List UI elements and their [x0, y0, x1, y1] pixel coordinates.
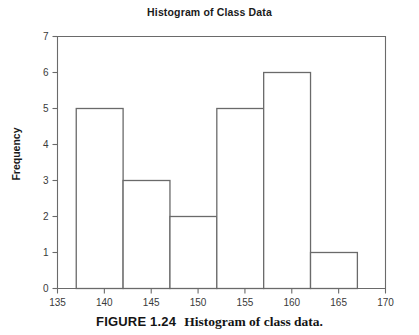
y-axis-tick-label: 7	[29, 32, 49, 42]
x-axis-tick-label: 165	[322, 298, 356, 308]
figure-caption: FIGURE 1.24Histogram of class data.	[0, 312, 419, 330]
x-axis-tick-label: 170	[369, 298, 403, 308]
figure-caption-text: Histogram of class data.	[184, 314, 323, 329]
histogram-bar	[264, 73, 311, 289]
y-axis-tick-label: 1	[29, 248, 49, 258]
x-axis-tick-label: 145	[134, 298, 168, 308]
x-axis-tick-label: 140	[87, 298, 121, 308]
histogram-bar	[123, 181, 170, 289]
y-axis-ticks	[53, 37, 58, 289]
histogram-bar	[170, 217, 217, 289]
y-axis-tick-label: 2	[29, 212, 49, 222]
y-axis-tick-label: 5	[29, 104, 49, 114]
figure-container: Histogram of Class Data 01234567 1351401…	[0, 0, 419, 335]
y-axis-tick-label: 6	[29, 68, 49, 78]
x-axis-tick-label: 135	[41, 298, 75, 308]
figure-number: FIGURE 1.24	[96, 314, 176, 329]
x-axis-tick-label: 155	[228, 298, 262, 308]
histogram-bars	[76, 73, 357, 289]
histogram-bar	[217, 109, 264, 289]
y-axis-tick-label: 3	[29, 176, 49, 186]
histogram-bar	[76, 109, 123, 289]
y-axis-tick-label: 4	[29, 140, 49, 150]
plot-area: 01234567 135140145150155160165170 Freque…	[0, 0, 419, 310]
y-axis-tick-label: 0	[29, 284, 49, 294]
histogram-plot	[0, 0, 419, 310]
x-axis-tick-label: 150	[181, 298, 215, 308]
x-axis-tick-label: 160	[275, 298, 309, 308]
x-axis-ticks	[58, 289, 386, 294]
y-axis-title: Frequency	[10, 114, 22, 194]
histogram-bar	[311, 253, 358, 289]
